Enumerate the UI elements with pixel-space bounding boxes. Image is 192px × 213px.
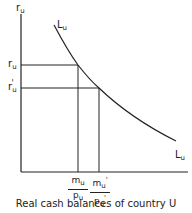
x-tick-m-u-prime-num-base: m <box>92 178 101 188</box>
y-axis-label-sub: u <box>20 7 24 15</box>
x-axis-caption: Real cash balances of country U <box>0 198 192 209</box>
curve-label-bottom-sub: u <box>181 154 185 162</box>
x-tick-m-u-numerator: mu <box>68 176 88 190</box>
x-tick-m-u-prime-num-prime: ' <box>106 176 108 184</box>
curve-label-top: Lu <box>57 20 67 33</box>
x-tick-m-u-num-sub: u <box>80 179 84 187</box>
x-tick-m-u-num-base: m <box>71 175 80 185</box>
liquidity-curve-L-u <box>54 25 176 141</box>
y-tick-r-u-sub: u <box>12 63 16 71</box>
y-tick-r-u-prime-mark: ' <box>12 79 14 88</box>
y-tick-r-u: ru <box>8 59 17 72</box>
y-tick-r-u-prime: ru' <box>8 82 19 95</box>
curve-label-top-sub: u <box>63 24 67 32</box>
curve-label-bottom: Lu <box>175 150 185 163</box>
x-tick-m-u-prime-numerator: mu' <box>90 176 110 193</box>
y-axis-label: ru <box>16 3 25 16</box>
